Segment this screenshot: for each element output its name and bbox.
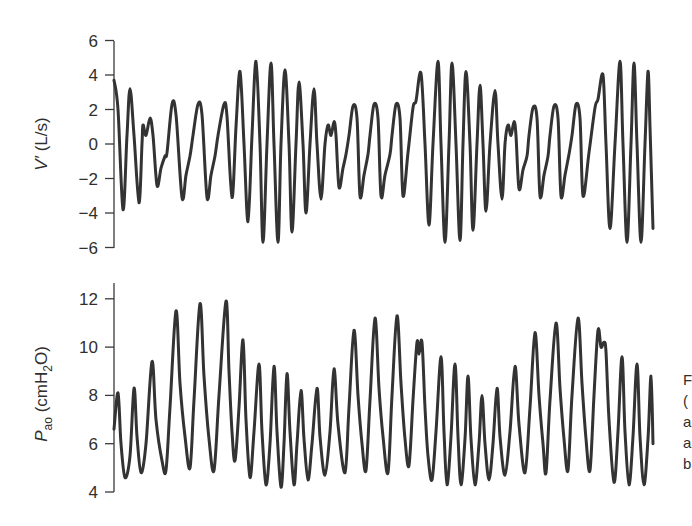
pressure-y-axis-unit-end: O) <box>32 346 51 365</box>
flow-y-tick-label: 4 <box>89 66 98 85</box>
caption-fragment: F <box>683 369 692 390</box>
pressure-panel: Pao (cmH2O) 1210864 <box>32 283 653 502</box>
pressure-y-tick-label: 10 <box>79 338 98 357</box>
flow-y-tick-label: −4 <box>79 204 98 223</box>
caption-fragment: ( <box>683 390 692 411</box>
pressure-y-axis-symbol: P <box>32 430 51 442</box>
pressure-y-axis-unit: (cmH <box>32 372 51 417</box>
pressure-y-tick-label: 4 <box>89 483 98 502</box>
pressure-y-tick-label: 6 <box>89 435 98 454</box>
pressure-y-tick-label: 12 <box>79 290 98 309</box>
flow-y-tick-label: 6 <box>89 32 98 51</box>
caption-fragment: b <box>683 453 692 474</box>
pressure-trace-line <box>114 301 653 487</box>
flow-trace-line <box>114 61 653 242</box>
flow-y-ticks: 6420−2−4−6 <box>79 32 114 258</box>
flow-y-tick-label: −6 <box>79 239 98 258</box>
flow-y-tick-label: 0 <box>89 135 98 154</box>
flow-panel: V′ (L/s) 6420−2−4−6 <box>32 32 653 258</box>
flow-y-axis-symbol: V′ <box>32 155 51 170</box>
caption-fragment: a <box>683 432 692 453</box>
pressure-y-axis-title: Pao (cmH2O) <box>32 346 55 442</box>
flow-y-tick-label: 2 <box>89 101 98 120</box>
flow-y-axis-title: V′ (L/s) <box>32 117 51 170</box>
flow-y-axis-unit: (L/s) <box>32 117 51 156</box>
caption-fragment: a <box>683 411 692 432</box>
pressure-y-tick-label: 8 <box>89 386 98 405</box>
truncated-figure-caption: F(aab <box>683 369 692 474</box>
pressure-y-ticks: 1210864 <box>79 290 114 502</box>
flow-y-tick-label: −2 <box>79 170 98 189</box>
pressure-y-axis-subscript: ao <box>41 417 55 431</box>
